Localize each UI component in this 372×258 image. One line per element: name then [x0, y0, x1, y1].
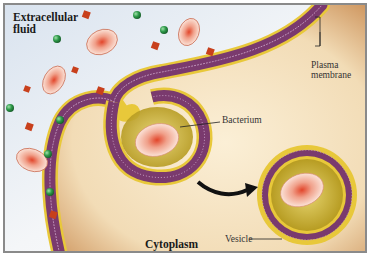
vesicle-label: Vesicle — [225, 235, 252, 245]
extracellular-label-line2: fluid — [13, 23, 78, 35]
cytoplasm-label: Cytoplasm — [145, 238, 198, 250]
phagocytosis-illustration — [5, 5, 367, 253]
vesicle — [257, 145, 357, 245]
extracellular-label-line1: Extracellular — [13, 11, 78, 23]
diagram-stage: Extracellular fluid Plasma membrane Bact… — [0, 0, 372, 258]
plasma-label-line2: membrane — [311, 71, 351, 81]
plasma-membrane-label: Plasma membrane — [311, 61, 351, 81]
diagram-frame: Extracellular fluid Plasma membrane Bact… — [3, 3, 367, 253]
bacterium-label: Bacterium — [222, 116, 262, 126]
extracellular-fluid-label: Extracellular fluid — [13, 11, 78, 35]
